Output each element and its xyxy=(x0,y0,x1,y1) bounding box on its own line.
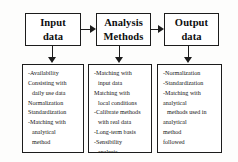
arrow-down-input-icon xyxy=(48,46,57,64)
arrow-head xyxy=(158,25,164,33)
detail-line: Standardization xyxy=(28,108,79,118)
stage-title-line1: Output xyxy=(175,16,208,29)
detail-line: analytical xyxy=(163,99,217,109)
detail-line: Normalization xyxy=(28,99,79,109)
detail-line: analytical xyxy=(28,128,79,138)
detail-line: -Standardization xyxy=(163,79,217,89)
detail-line: -Matching with xyxy=(163,89,217,99)
flowchart-diagram: Input data Analysis Methods Output data … xyxy=(0,0,238,162)
arrow-shaft xyxy=(81,29,90,30)
detail-line: analytical xyxy=(163,118,217,128)
detail-line: -Matching with xyxy=(94,69,147,79)
detail-box-analysis-methods: -Matching with input data Matching with … xyxy=(88,64,152,153)
detail-line: -Sensibility xyxy=(94,138,147,148)
detail-line: method xyxy=(163,128,217,138)
arrow-head xyxy=(115,57,123,63)
detail-line: daily use data xyxy=(28,89,79,99)
detail-line: -Availability xyxy=(28,69,79,79)
detail-line: Consisting with xyxy=(28,79,79,89)
detail-line: method xyxy=(28,138,79,148)
stage-box-input: Input data xyxy=(25,13,81,46)
detail-line: -Long-term basis xyxy=(94,128,147,138)
arrow-head xyxy=(90,25,96,33)
detail-line: -Matching with xyxy=(28,118,79,128)
arrow-shaft xyxy=(151,29,158,30)
stage-title-line2: data xyxy=(43,30,63,43)
arrow-analysis-to-output-icon xyxy=(151,25,164,34)
stage-title-line1: Input xyxy=(40,16,66,29)
stage-box-output: Output data xyxy=(164,13,219,46)
detail-box-output: -Normalization -Standardization -Matchin… xyxy=(157,64,222,153)
detail-line: -Calibrate methods xyxy=(94,108,147,118)
detail-line: with real data xyxy=(94,118,147,128)
detail-line: Matching with xyxy=(94,89,147,99)
detail-line: methods used in xyxy=(163,108,217,118)
stage-box-analysis-methods: Analysis Methods xyxy=(96,13,151,46)
detail-line: -Normalization xyxy=(163,69,217,79)
stage-title-line2: Methods xyxy=(104,30,144,43)
stage-title-line1: Analysis xyxy=(104,16,143,29)
detail-line: analysis xyxy=(94,148,147,153)
arrow-input-to-analysis-icon xyxy=(81,25,96,34)
detail-box-input: -Availability Consisting with daily use … xyxy=(22,64,84,153)
stage-title-line2: data xyxy=(181,30,201,43)
arrow-head xyxy=(184,57,192,63)
detail-line: input data xyxy=(94,79,147,89)
arrow-down-output-icon xyxy=(184,46,193,64)
detail-line: followed xyxy=(163,138,217,148)
arrow-down-analysis-icon xyxy=(115,46,124,64)
detail-line: local conditions xyxy=(94,99,147,109)
arrow-head xyxy=(48,57,56,63)
